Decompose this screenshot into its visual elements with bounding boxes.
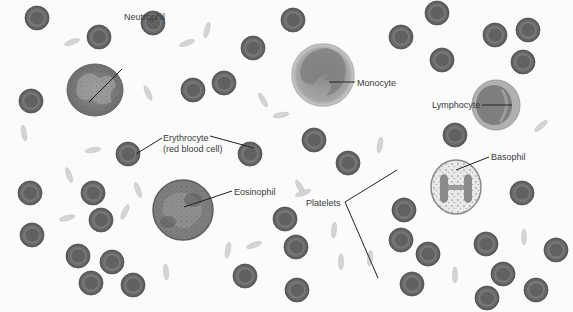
basophil-cell <box>431 160 481 214</box>
label-basophil: Basophil <box>491 152 526 162</box>
label-platelets: Platelets <box>306 198 341 208</box>
blood-cells-diagram <box>0 0 573 312</box>
label-erythrocyte-sub: (red blood cell) <box>163 144 223 154</box>
eosinophil-cell <box>153 180 213 240</box>
label-neutrophil: Neutrophil <box>124 12 165 22</box>
red-blood-cells <box>18 1 568 310</box>
label-eosinophil: Eosinophil <box>234 187 276 197</box>
label-erythrocyte: Erythrocyte <box>163 133 209 143</box>
label-lymphocyte: Lymphocyte <box>432 100 480 110</box>
label-monocyte: Monocyte <box>357 78 396 88</box>
monocyte-cell <box>292 44 354 106</box>
neutrophil-cell <box>67 64 123 116</box>
